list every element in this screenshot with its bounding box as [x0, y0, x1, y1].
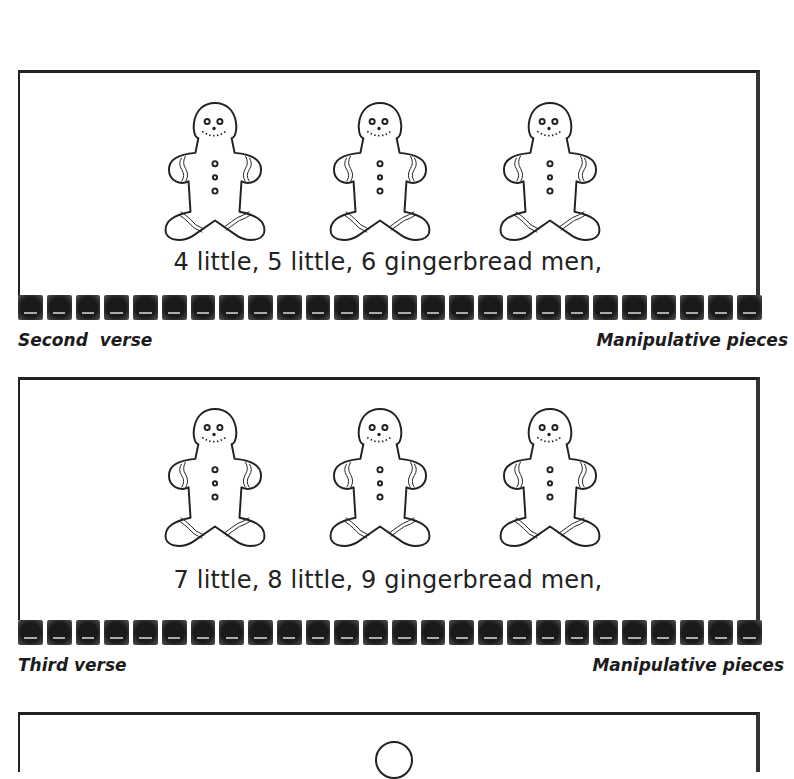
manipulative-piece — [737, 295, 762, 320]
manipulative-piece — [651, 295, 676, 320]
manipulative-piece — [76, 620, 101, 645]
manipulative-piece — [47, 620, 72, 645]
gingerbread-man-icon — [325, 405, 435, 550]
manipulative-piece — [507, 620, 532, 645]
manipulative-piece — [191, 620, 216, 645]
manipulative-piece — [306, 295, 331, 320]
gingerbread-man-icon — [160, 405, 270, 550]
verse-label: Second verse — [18, 330, 152, 350]
manipulative-piece — [76, 295, 101, 320]
gingerbread-man-icon — [325, 99, 435, 244]
verse-caption: 7 little, 8 little, 9 gingerbread men, — [20, 566, 756, 594]
manipulative-piece — [449, 295, 474, 320]
manipulative-piece — [536, 295, 561, 320]
manipulative-piece — [651, 620, 676, 645]
manipulative-piece — [392, 295, 417, 320]
manipulative-piece — [219, 295, 244, 320]
manipulative-piece — [162, 620, 187, 645]
manipulative-piece — [507, 295, 532, 320]
manipulative-strip — [18, 620, 762, 645]
manipulative-piece — [622, 620, 647, 645]
manipulative-pieces-label: Manipulative pieces — [596, 330, 788, 350]
manipulative-piece — [449, 620, 474, 645]
manipulative-piece — [191, 295, 216, 320]
manipulative-piece — [737, 620, 762, 645]
manipulative-piece — [47, 295, 72, 320]
manipulative-piece — [708, 620, 733, 645]
gingerbread-man-icon — [160, 99, 270, 244]
manipulative-piece — [334, 295, 359, 320]
manipulative-piece — [680, 295, 705, 320]
manipulative-piece — [277, 620, 302, 645]
gingerbread-head-partial-icon — [375, 741, 413, 779]
manipulative-piece — [565, 295, 590, 320]
verse-card-2: 7 little, 8 little, 9 gingerbread men, — [18, 377, 760, 620]
manipulative-piece — [593, 295, 618, 320]
manipulative-piece — [277, 295, 302, 320]
manipulative-piece — [104, 620, 129, 645]
manipulative-piece — [363, 295, 388, 320]
manipulative-piece — [219, 620, 244, 645]
verse-caption: 4 little, 5 little, 6 gingerbread men, — [20, 248, 756, 276]
manipulative-piece — [593, 620, 618, 645]
manipulative-piece — [133, 295, 158, 320]
manipulative-piece — [421, 620, 446, 645]
manipulative-piece — [363, 620, 388, 645]
manipulative-strip — [18, 295, 762, 320]
verse-label: Third verse — [18, 655, 127, 675]
verse-card-1: 4 little, 5 little, 6 gingerbread men, — [18, 70, 760, 296]
manipulative-piece — [478, 295, 503, 320]
manipulative-piece — [708, 295, 733, 320]
manipulative-piece — [18, 620, 43, 645]
manipulative-piece — [680, 620, 705, 645]
gingerbread-row — [20, 99, 756, 244]
gingerbread-row — [20, 405, 756, 550]
manipulative-piece — [306, 620, 331, 645]
gingerbread-man-icon — [495, 99, 605, 244]
manipulative-piece — [248, 295, 273, 320]
manipulative-piece — [622, 295, 647, 320]
manipulative-piece — [162, 295, 187, 320]
manipulative-piece — [392, 620, 417, 645]
manipulative-piece — [421, 295, 446, 320]
verse-card-3 — [18, 712, 760, 772]
manipulative-piece — [536, 620, 561, 645]
manipulative-piece — [104, 295, 129, 320]
manipulative-pieces-label: Manipulative pieces — [592, 655, 784, 675]
manipulative-piece — [133, 620, 158, 645]
manipulative-piece — [18, 295, 43, 320]
gingerbread-man-icon — [495, 405, 605, 550]
manipulative-piece — [565, 620, 590, 645]
manipulative-piece — [248, 620, 273, 645]
manipulative-piece — [478, 620, 503, 645]
manipulative-piece — [334, 620, 359, 645]
